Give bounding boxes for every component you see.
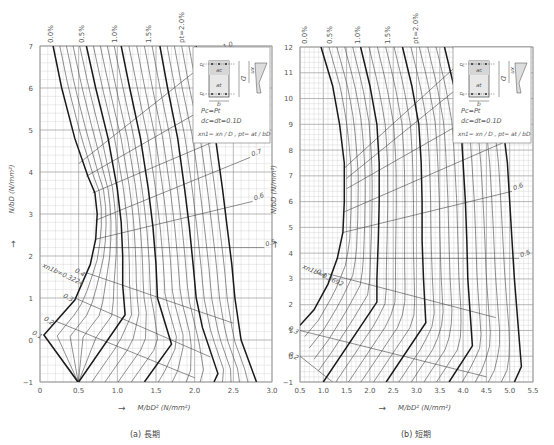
svg-text:3: 3 [289, 275, 293, 283]
svg-text:D: D [239, 76, 247, 81]
svg-text:at: at [216, 82, 222, 88]
svg-text:→: → [118, 403, 126, 413]
svg-text:1.0: 1.0 [318, 387, 329, 395]
svg-text:4.5: 4.5 [481, 387, 492, 395]
svg-text:10: 10 [284, 95, 293, 103]
svg-text:5.5: 5.5 [527, 387, 538, 395]
svg-text:0.5: 0.5 [73, 387, 84, 395]
svg-text:0: 0 [38, 387, 42, 395]
svg-text:dc=dt=0.1D: dc=dt=0.1D [461, 117, 502, 125]
svg-text:at: at [476, 82, 482, 88]
svg-text:0.0%: 0.0% [301, 26, 309, 44]
svg-text:−1: −1 [283, 379, 293, 387]
svg-text:d: d [199, 92, 205, 96]
svg-text:1.5: 1.5 [150, 387, 161, 395]
svg-text:1.0%: 1.0% [354, 26, 362, 44]
svg-text:pt=2.0%: pt=2.0% [178, 12, 186, 43]
svg-text:1: 1 [29, 295, 33, 303]
svg-text:8: 8 [289, 147, 293, 155]
svg-text:M/bD² (N/mm²): M/bD² (N/mm²) [138, 404, 191, 412]
svg-text:11: 11 [284, 69, 293, 77]
svg-text:0.0%: 0.0% [47, 25, 55, 43]
interaction-diagram-svg: 00.51.01.52.02.53.0−101234567→M/bD² (N/m… [0, 0, 554, 445]
svg-text:1.5: 1.5 [341, 387, 352, 395]
chart-long_term: 00.51.01.52.02.53.0−101234567→M/bD² (N/m… [8, 12, 278, 413]
svg-text:2.5: 2.5 [388, 387, 399, 395]
svg-text:d: d [459, 92, 465, 96]
svg-text:1.0: 1.0 [112, 387, 123, 395]
svg-text:9: 9 [289, 121, 293, 129]
svg-text:6: 6 [29, 85, 34, 93]
svg-text:1.5%: 1.5% [384, 26, 392, 44]
svg-text:7: 7 [29, 43, 33, 51]
caption-short-term: (b) 短期 [401, 428, 431, 439]
svg-text:2: 2 [29, 253, 33, 261]
svg-text:0.5%: 0.5% [78, 25, 86, 43]
svg-text:6: 6 [289, 198, 294, 206]
svg-text:5: 5 [289, 224, 293, 232]
svg-text:0: 0 [29, 337, 33, 345]
svg-text:dc=dt=0.1D: dc=dt=0.1D [201, 117, 242, 125]
chart-short_term: 0.51.01.52.02.53.03.54.04.55.05.5−101234… [270, 13, 539, 413]
svg-text:d: d [199, 63, 205, 67]
svg-text:0.5%: 0.5% [326, 26, 334, 44]
svg-text:N/bD (N/mm²): N/bD (N/mm²) [8, 164, 16, 213]
svg-text:3: 3 [29, 211, 33, 219]
svg-text:4: 4 [289, 250, 294, 258]
svg-text:5: 5 [29, 127, 33, 135]
svg-text:N/bD (N/mm²): N/bD (N/mm²) [270, 165, 278, 214]
svg-text:1.5%: 1.5% [145, 25, 153, 43]
caption-long-term: (a) 長期 [130, 428, 160, 439]
legend-box: acatbddDxnPc=Ptdc=dt=0.1Dxn1= xn / D , p… [453, 47, 531, 143]
svg-text:3.0: 3.0 [411, 387, 422, 395]
svg-text:4.0: 4.0 [458, 387, 469, 395]
svg-text:0.5: 0.5 [294, 387, 305, 395]
svg-text:M/bD² (N/mm²): M/bD² (N/mm²) [398, 404, 451, 412]
legend-box: acatbddDxnPc=Ptdc=dt=0.1Dxn1= xn / D , p… [193, 47, 271, 143]
svg-text:4: 4 [29, 169, 34, 177]
svg-text:→: → [379, 403, 387, 413]
svg-text:d: d [459, 63, 465, 67]
svg-text:3.0: 3.0 [266, 387, 277, 395]
svg-text:pt=2.0%: pt=2.0% [412, 13, 420, 44]
svg-text:3.5: 3.5 [434, 387, 445, 395]
svg-text:→: → [270, 240, 280, 248]
svg-text:2.5: 2.5 [228, 387, 239, 395]
svg-text:7: 7 [289, 172, 293, 180]
svg-text:2: 2 [289, 301, 293, 309]
svg-text:2.0: 2.0 [364, 387, 375, 395]
svg-text:5.0: 5.0 [504, 387, 515, 395]
svg-text:D: D [499, 76, 507, 81]
svg-text:Pc=Pt: Pc=Pt [461, 107, 481, 115]
svg-text:ac: ac [216, 67, 222, 73]
svg-text:Pc=Pt: Pc=Pt [201, 107, 221, 115]
svg-text:2.0: 2.0 [189, 387, 200, 395]
svg-text:−1: −1 [23, 379, 33, 387]
svg-text:→: → [8, 240, 18, 248]
svg-text:ac: ac [476, 67, 482, 73]
svg-text:1.0%: 1.0% [111, 25, 119, 43]
svg-text:12: 12 [284, 44, 293, 52]
svg-text:xn1= xn / D , pt= at / bD: xn1= xn / D , pt= at / bD [457, 131, 531, 138]
svg-text:xn1= xn / D , pt= at / bD: xn1= xn / D , pt= at / bD [197, 131, 271, 138]
